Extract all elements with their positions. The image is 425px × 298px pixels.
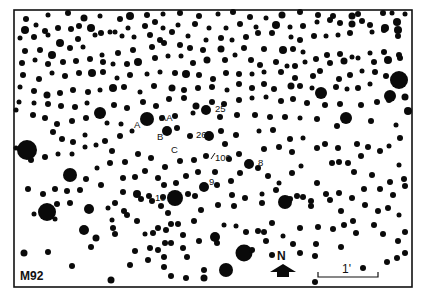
star [262, 70, 267, 75]
star [155, 225, 161, 231]
star [349, 195, 355, 201]
star [110, 218, 115, 223]
star [371, 59, 377, 65]
star [102, 138, 108, 144]
star [204, 38, 209, 43]
star-label: 25 [215, 103, 226, 114]
star [50, 71, 55, 76]
star [265, 173, 271, 179]
star [242, 195, 248, 201]
star [46, 13, 51, 18]
star [287, 136, 293, 142]
star [377, 186, 383, 192]
star [117, 16, 123, 22]
star [298, 116, 303, 121]
star [63, 168, 77, 182]
star [390, 11, 395, 16]
star [269, 252, 275, 258]
star [207, 26, 212, 31]
star [279, 12, 286, 19]
star [394, 255, 400, 261]
star [196, 238, 202, 244]
star [201, 267, 207, 273]
star [279, 46, 287, 54]
star [395, 33, 401, 39]
star [315, 87, 327, 99]
star [278, 69, 284, 75]
star [362, 202, 368, 208]
star [223, 70, 229, 76]
star [393, 18, 401, 26]
star [353, 230, 359, 236]
star [32, 212, 37, 217]
star [276, 144, 282, 150]
star [327, 197, 333, 203]
star [124, 61, 130, 67]
star [288, 25, 293, 30]
star [166, 96, 172, 102]
star [32, 101, 37, 106]
star [56, 152, 61, 157]
scale-bar: 1' [318, 262, 378, 277]
star [310, 86, 315, 91]
star [33, 58, 38, 63]
star [338, 244, 344, 250]
star [162, 126, 172, 136]
star [289, 149, 295, 155]
star [350, 55, 355, 60]
star [98, 14, 103, 19]
star [267, 114, 273, 120]
star [330, 226, 336, 232]
star [132, 174, 138, 180]
star [17, 140, 37, 160]
star [132, 248, 138, 254]
star [312, 253, 318, 259]
star [184, 254, 190, 260]
star [65, 10, 71, 16]
north-label: N [277, 249, 286, 263]
star [403, 12, 408, 17]
star [349, 13, 356, 20]
star [243, 229, 249, 235]
star [219, 263, 233, 277]
star [162, 240, 168, 246]
star [201, 105, 211, 115]
star [146, 193, 152, 199]
star [372, 69, 378, 75]
star [250, 72, 255, 77]
star [340, 112, 352, 124]
star [334, 123, 340, 129]
star [322, 141, 328, 147]
star [313, 241, 319, 247]
star [338, 208, 344, 214]
star [161, 12, 166, 17]
star [67, 45, 73, 51]
star [163, 227, 169, 233]
star [315, 12, 321, 18]
star [230, 38, 235, 43]
star [404, 107, 412, 115]
star [273, 59, 279, 65]
star [111, 102, 117, 108]
star [341, 58, 348, 65]
cluster-title: M92 [20, 269, 44, 283]
star [351, 169, 357, 175]
star [196, 72, 202, 78]
star [100, 59, 106, 65]
scale-label: 1' [342, 262, 351, 276]
star [402, 250, 408, 256]
star [83, 115, 89, 121]
star [212, 169, 218, 175]
star [289, 170, 295, 176]
star [264, 95, 269, 100]
star [292, 63, 298, 69]
star [360, 69, 365, 74]
star [297, 37, 303, 43]
star [236, 97, 242, 103]
star [294, 193, 300, 199]
star [377, 148, 383, 154]
star [345, 160, 351, 166]
star [187, 45, 193, 51]
star [361, 186, 367, 192]
star [355, 85, 361, 91]
